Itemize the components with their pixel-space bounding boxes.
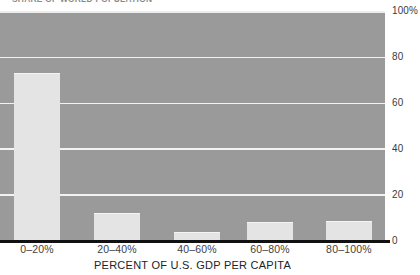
plot-top-edge [0, 11, 385, 13]
x-axis-title: PERCENT OF U.S. GDP PER CAPITA [0, 259, 385, 271]
bar-80-100 [326, 221, 372, 241]
y-tick-label-60: 60 [392, 96, 403, 108]
bar-60-80 [247, 222, 293, 240]
plot-area [0, 11, 385, 240]
x-tick-label-0-20: 0–20% [0, 243, 82, 255]
y-tick-label-80: 80 [392, 50, 403, 62]
x-tick-label-20-40: 20–40% [72, 243, 162, 255]
x-tick-label-60-80: 60–80% [225, 243, 315, 255]
bar-0-20 [14, 73, 60, 240]
bar-20-40 [94, 213, 140, 241]
y-tick-label-20: 20 [392, 188, 403, 200]
x-tick-label-80-100: 80–100% [304, 243, 394, 255]
gridline-80 [0, 57, 385, 59]
y-tick-label-40: 40 [392, 142, 403, 154]
bar-40-60 [174, 232, 220, 240]
y-tick-label-100: 100% [392, 4, 418, 16]
bar-chart-figure: SHARE OF WORLD POPULATION 100% 80 60 40 … [0, 0, 420, 275]
chart-title: SHARE OF WORLD POPULATION [12, 0, 276, 4]
